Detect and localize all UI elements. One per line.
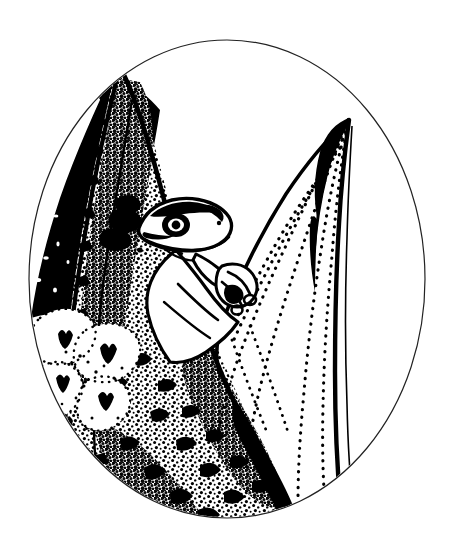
frog-eye	[162, 213, 190, 237]
artwork-canvas: Frog on Plant Stem pen-and-ink line illu…	[0, 0, 452, 544]
illustration-svg	[0, 0, 452, 544]
